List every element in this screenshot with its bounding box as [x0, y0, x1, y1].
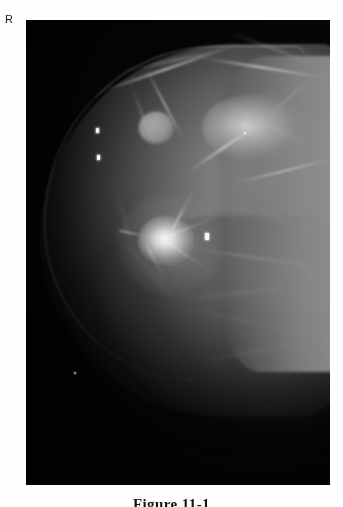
figure-page: R	[0, 0, 343, 507]
microcalcification-lower	[74, 372, 76, 374]
radiopaque-marker-lesion	[205, 233, 209, 240]
mammogram-film[interactable]	[26, 20, 330, 485]
figure-caption: Figure 11-1	[0, 496, 343, 507]
round-circumscribed-mass[interactable]	[139, 112, 173, 143]
radiopaque-marker-mid	[97, 155, 100, 160]
radiopaque-marker-upper	[96, 128, 99, 133]
spiculated-lesion[interactable]	[138, 216, 194, 266]
microcalcification-upper	[244, 132, 246, 134]
laterality-marker-r: R	[5, 13, 13, 25]
